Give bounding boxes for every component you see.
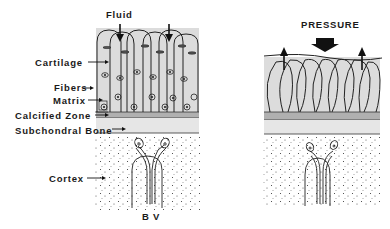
right-cortex <box>263 137 380 205</box>
matrix-label: Matrix <box>53 96 86 106</box>
left-cortex <box>95 135 200 210</box>
subchondral-bone-label: Subchondral Bone <box>15 126 112 136</box>
right-calcified-zone <box>264 112 380 120</box>
left-calcified-zone <box>96 112 199 118</box>
blood-vessel-label: B V <box>142 212 160 222</box>
cortex-label: Cortex <box>49 174 84 184</box>
pressure-label: PRESSURE <box>301 20 360 30</box>
fluid-label: Fluid <box>106 10 133 20</box>
left-cartilage-layer <box>96 28 199 112</box>
right-subchondral-bone <box>264 120 380 134</box>
right-panel <box>263 38 382 206</box>
left-panel <box>83 24 200 210</box>
fibers-label: Fibers <box>54 83 87 93</box>
calcified-zone-label: Calcified Zone <box>15 111 91 121</box>
pressure-arrow-icon <box>311 38 339 52</box>
cartilage-label: Cartilage <box>35 58 83 68</box>
